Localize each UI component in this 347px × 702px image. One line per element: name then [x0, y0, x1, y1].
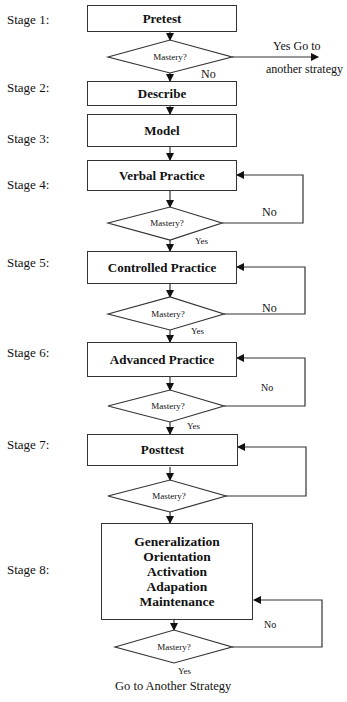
decision-5-text: Mastery? — [128, 309, 208, 319]
stage-8-yes-label: Yes — [178, 666, 191, 676]
maintenance-line: Maintenance — [140, 594, 215, 609]
stage-1-no-label: No — [201, 67, 216, 82]
decision-8-text: Mastery? — [134, 642, 214, 652]
generalization-line: Generalization — [134, 534, 219, 549]
stage-4-label: Stage 4: — [7, 177, 49, 193]
stage-6-yes-label: Yes — [187, 421, 200, 431]
verbal-practice-box: Verbal Practice — [87, 160, 237, 191]
stage-4-no-label: No — [262, 205, 277, 220]
stage-6-label: Stage 6: — [7, 345, 49, 361]
activation-line: Activation — [147, 564, 207, 579]
stage-5-no-label: No — [262, 301, 277, 316]
stage-5-yes-label: Yes — [191, 326, 204, 336]
stage-1-yes-label: Yes Go to — [273, 39, 320, 54]
posttest-box: Posttest — [87, 434, 238, 466]
stage-4-yes-label: Yes — [195, 236, 208, 246]
stage-1-yes-label-2: another strategy — [266, 62, 343, 77]
end-label: Go to Another Strategy — [115, 679, 231, 694]
advanced-practice-box: Advanced Practice — [87, 342, 237, 377]
controlled-practice-box: Controlled Practice — [87, 251, 237, 284]
stage-6-no-label: No — [261, 382, 273, 393]
stage-5-label: Stage 5: — [7, 255, 49, 271]
adapation-line: Adapation — [147, 579, 208, 594]
describe-box: Describe — [87, 81, 237, 106]
stage-8-label: Stage 8: — [7, 562, 49, 578]
decision-6-text: Mastery? — [128, 401, 208, 411]
decision-1-text: Mastery? — [130, 52, 210, 62]
stage-3-label: Stage 3: — [7, 131, 49, 147]
stage-1-label: Stage 1: — [7, 12, 49, 28]
decision-4-text: Mastery? — [127, 218, 207, 228]
pretest-box: Pretest — [87, 5, 237, 32]
model-box: Model — [87, 114, 237, 147]
stage-7-label: Stage 7: — [7, 437, 49, 453]
decision-7-text: Mastery? — [129, 491, 209, 501]
stage-8-no-label: No — [264, 619, 276, 630]
generalization-box: Generalization Orientation Activation Ad… — [101, 523, 253, 620]
orientation-line: Orientation — [143, 549, 211, 564]
stage-2-label: Stage 2: — [7, 80, 49, 96]
